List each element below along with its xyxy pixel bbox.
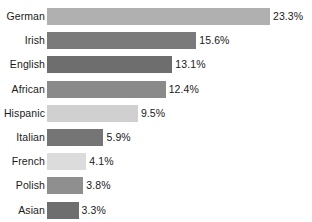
category-label: German bbox=[0, 8, 45, 25]
category-label: Irish bbox=[0, 32, 45, 49]
category-label: English bbox=[0, 56, 45, 73]
value-label: 4.1% bbox=[89, 153, 113, 170]
bar bbox=[47, 81, 166, 98]
bar-row: Italian5.9% bbox=[0, 129, 312, 146]
bar bbox=[47, 105, 138, 122]
category-label: Polish bbox=[0, 177, 45, 194]
bar bbox=[47, 129, 103, 146]
bar-row: French4.1% bbox=[0, 153, 312, 170]
bar-row: Hispanic9.5% bbox=[0, 105, 312, 122]
category-label: Italian bbox=[0, 129, 45, 146]
category-label: African bbox=[0, 81, 45, 98]
bar-row: African12.4% bbox=[0, 81, 312, 98]
bar-row: German23.3% bbox=[0, 8, 312, 25]
value-label: 9.5% bbox=[141, 105, 165, 122]
bar bbox=[47, 8, 270, 25]
bar-row: Irish15.6% bbox=[0, 32, 312, 49]
category-label: Asian bbox=[0, 202, 45, 219]
category-label: Hispanic bbox=[0, 105, 45, 122]
bar-row: Polish3.8% bbox=[0, 177, 312, 194]
value-label: 15.6% bbox=[199, 32, 229, 49]
bar bbox=[47, 56, 172, 73]
category-label: French bbox=[0, 153, 45, 170]
value-label: 23.3% bbox=[273, 8, 303, 25]
value-label: 3.8% bbox=[86, 177, 110, 194]
value-label: 5.9% bbox=[106, 129, 130, 146]
value-label: 13.1% bbox=[175, 56, 205, 73]
bar bbox=[47, 177, 83, 194]
bar bbox=[47, 202, 79, 219]
bar bbox=[47, 153, 86, 170]
value-label: 12.4% bbox=[169, 81, 199, 98]
horizontal-bar-chart: German23.3%Irish15.6%English13.1%African… bbox=[0, 0, 312, 222]
value-label: 3.3% bbox=[82, 202, 106, 219]
bar bbox=[47, 32, 196, 49]
bar-row: Asian3.3% bbox=[0, 202, 312, 219]
bar-row: English13.1% bbox=[0, 56, 312, 73]
